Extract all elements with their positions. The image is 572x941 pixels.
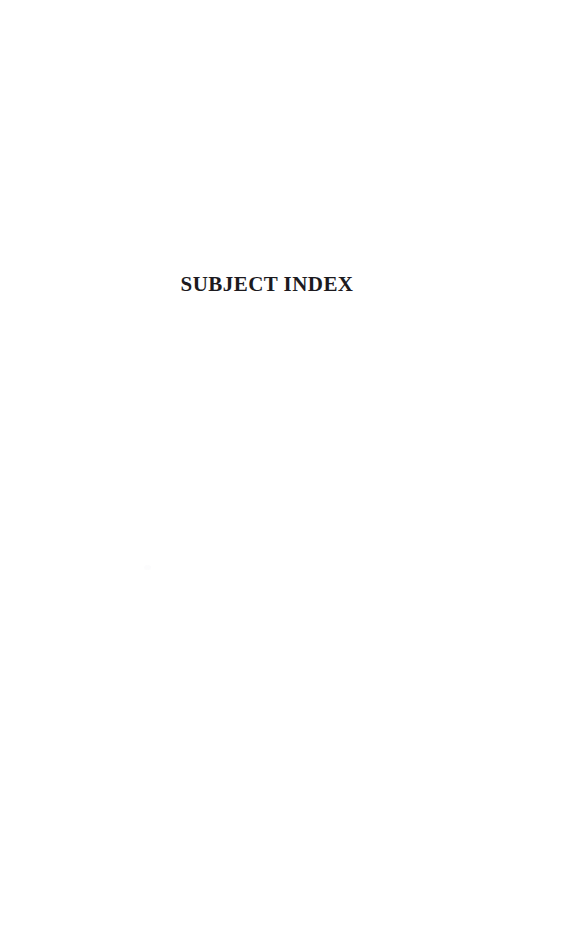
page-title: SUBJECT INDEX: [0, 272, 534, 296]
scanned-page: SUBJECT INDEX: [0, 0, 572, 941]
scan-artifact-speck: [144, 565, 151, 570]
